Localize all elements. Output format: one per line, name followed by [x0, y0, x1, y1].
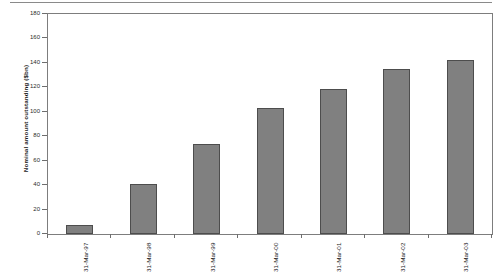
bar [130, 184, 157, 234]
bar [193, 144, 220, 234]
x-tick-mark [301, 234, 302, 238]
y-tick-label: 80 [10, 132, 40, 138]
y-tick-label: 140 [10, 59, 40, 65]
x-tick-mark [237, 234, 238, 238]
y-axis-ticks: 020406080100120140160180 [0, 0, 47, 234]
y-tick-label: 160 [10, 34, 40, 40]
x-tick-mark [174, 234, 175, 238]
x-tick-label: 31-Mar-02 [399, 243, 406, 272]
x-tick-label: 31-Mar-97 [82, 243, 89, 272]
x-tick-label: 31-Mar-03 [462, 243, 469, 272]
x-tick-mark [364, 234, 365, 238]
bar [257, 108, 284, 234]
x-tick-mark [47, 234, 48, 238]
y-tick-label: 180 [10, 10, 40, 16]
y-tick-label: 120 [10, 83, 40, 89]
bar [66, 225, 93, 234]
y-tick-label: 0 [10, 230, 40, 236]
x-tick-mark [491, 234, 492, 238]
bar [383, 69, 410, 234]
x-tick-label: 31-Mar-98 [145, 243, 152, 272]
x-tick-label: 31-Mar-01 [335, 243, 342, 272]
x-tick-mark [110, 234, 111, 238]
x-tick-mark [428, 234, 429, 238]
top-divider-rule [10, 2, 492, 3]
bar [447, 60, 474, 234]
x-axis-ticks: 31-Mar-9731-Mar-9831-Mar-9931-Mar-0031-M… [47, 234, 493, 278]
bars-layer [48, 14, 492, 234]
y-tick-label: 100 [10, 108, 40, 114]
y-tick-label: 20 [10, 206, 40, 212]
y-tick-label: 40 [10, 181, 40, 187]
bar [320, 89, 347, 234]
x-tick-label: 31-Mar-00 [272, 243, 279, 272]
x-tick-label: 31-Mar-99 [209, 243, 216, 272]
plot-area [47, 13, 493, 235]
bar-chart-figure: Nominal amount outstanding ($bn) 0204060… [0, 0, 499, 278]
y-tick-label: 60 [10, 157, 40, 163]
